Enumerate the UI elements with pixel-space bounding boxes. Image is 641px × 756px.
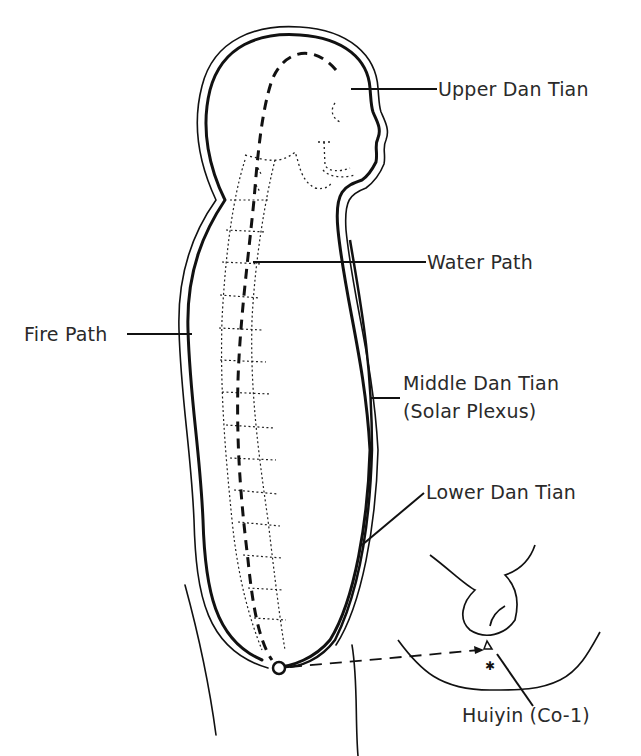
label-solar-plexus: (Solar Plexus) (403, 399, 536, 423)
perineum-inset: ✱ (398, 545, 600, 690)
label-huiyin: Huiyin (Co-1) (462, 703, 590, 727)
arrow-head (474, 646, 484, 654)
face-detail (245, 103, 355, 189)
label-fire-path: Fire Path (24, 322, 108, 346)
spine (219, 160, 286, 650)
svg-text:✱: ✱ (485, 659, 495, 673)
label-middle-dan-tian: Middle Dan Tian (403, 371, 559, 395)
label-water-path: Water Path (427, 250, 533, 274)
label-upper-dan-tian: Upper Dan Tian (438, 77, 589, 101)
body-outline (179, 27, 388, 668)
label-lower-dan-tian: Lower Dan Tian (426, 480, 576, 504)
front-channel-line (285, 240, 372, 667)
huiyin-point (273, 662, 285, 674)
leader-lines (127, 89, 533, 706)
